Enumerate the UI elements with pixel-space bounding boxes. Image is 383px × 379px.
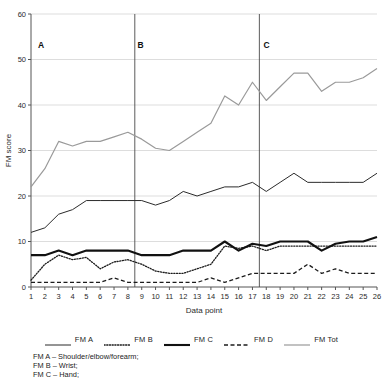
series-line-fm-a <box>31 173 377 232</box>
legend-swatch-solid-thick <box>164 335 190 343</box>
x-tick-label-8: 8 <box>126 292 130 301</box>
x-tick-label-13: 13 <box>193 292 201 301</box>
x-tick-label-18: 18 <box>262 292 270 301</box>
y-tick-label-20: 20 <box>18 192 26 201</box>
legend-label: FM C <box>194 335 213 344</box>
y-axis-title: FM score <box>4 133 13 167</box>
x-tick-label-11: 11 <box>166 292 174 301</box>
x-tick-label-21: 21 <box>304 292 312 301</box>
legend-swatch-dashed <box>224 335 250 343</box>
legend-swatch-dotted <box>104 335 130 343</box>
x-tick-label-3: 3 <box>57 292 61 301</box>
series-line-fm-tot <box>31 69 377 187</box>
y-tick-label-30: 30 <box>18 146 26 155</box>
legend-item-fm-b[interactable]: FM B <box>104 335 153 344</box>
x-tick-label-10: 10 <box>151 292 159 301</box>
phase-label-C: C <box>264 40 270 50</box>
x-tick-label-4: 4 <box>70 292 74 301</box>
legend-item-fm-tot[interactable]: FM Tot <box>284 335 338 344</box>
x-tick-label-20: 20 <box>290 292 298 301</box>
chart-caption: FM A – Shoulder/elbow/forearm; FM B – Wr… <box>33 352 373 379</box>
x-tick-label-16: 16 <box>234 292 242 301</box>
legend-label: FM Tot <box>314 335 338 344</box>
x-tick-label-25: 25 <box>359 292 367 301</box>
phase-label-B: B <box>138 40 144 50</box>
legend-item-fm-a[interactable]: FM A <box>45 335 93 344</box>
legend-label: FM A <box>75 335 93 344</box>
caption-line-2: FM B – Wrist; <box>33 361 373 370</box>
legend-label: FM B <box>134 335 153 344</box>
legend-label: FM D <box>254 335 273 344</box>
chart-plot-area: 0102030405060123456789101112131415161718… <box>0 0 383 320</box>
y-tick-label-50: 50 <box>18 55 26 64</box>
x-tick-label-2: 2 <box>43 292 47 301</box>
figure: 0102030405060123456789101112131415161718… <box>0 0 383 379</box>
x-tick-label-24: 24 <box>345 292 353 301</box>
x-tick-label-19: 19 <box>276 292 284 301</box>
caption-line-3: FM C – Hand; <box>33 370 373 379</box>
x-tick-label-9: 9 <box>140 292 144 301</box>
x-tick-label-7: 7 <box>112 292 116 301</box>
y-tick-label-10: 10 <box>18 237 26 246</box>
legend-item-fm-c[interactable]: FM C <box>164 335 213 344</box>
phase-label-A: A <box>38 40 44 50</box>
y-tick-label-40: 40 <box>18 101 26 110</box>
y-tick-label-0: 0 <box>22 283 26 292</box>
legend-swatch-solid-light <box>284 335 310 343</box>
legend-swatch-solid-thin <box>45 335 71 343</box>
x-tick-label-23: 23 <box>331 292 339 301</box>
x-tick-label-1: 1 <box>29 292 33 301</box>
chart-legend: FM AFM BFM CFM DFM Tot <box>0 330 383 348</box>
x-axis-title: Data point <box>186 306 223 315</box>
x-tick-label-6: 6 <box>98 292 102 301</box>
x-tick-label-17: 17 <box>248 292 256 301</box>
y-tick-label-60: 60 <box>18 10 26 19</box>
x-tick-label-12: 12 <box>179 292 187 301</box>
x-tick-label-15: 15 <box>221 292 229 301</box>
caption-line-1: FM A – Shoulder/elbow/forearm; <box>33 352 373 361</box>
x-tick-label-26: 26 <box>373 292 381 301</box>
x-tick-label-14: 14 <box>207 292 215 301</box>
x-tick-label-22: 22 <box>317 292 325 301</box>
x-tick-label-5: 5 <box>84 292 88 301</box>
line-chart: 0102030405060123456789101112131415161718… <box>0 0 383 320</box>
legend-item-fm-d[interactable]: FM D <box>224 335 273 344</box>
